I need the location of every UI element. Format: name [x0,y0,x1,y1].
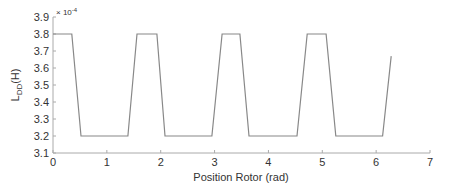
x-tick-label: 4 [265,156,271,168]
y-tick-label: 3.1 [34,147,49,159]
x-axis-label: Position Rotor (rad) [193,171,288,183]
data-line-ldd [53,34,391,136]
y-tick-label: 3.6 [34,62,49,74]
y-tick-label: 3.7 [34,45,49,57]
y-tick-label: 3.5 [34,79,49,91]
y-tick-label: 3.2 [34,130,49,142]
chart-container: 3.13.23.33.43.53.63.73.83.9 01234567 × 1… [0,0,450,189]
y-tick-label: 3.8 [34,28,49,40]
y-axis-label: LDD(H) [9,69,24,102]
x-tick-label: 1 [104,156,110,168]
x-tick-label: 0 [50,156,56,168]
x-tick-label: 7 [427,156,433,168]
x-tick-label: 2 [158,156,164,168]
x-tick-label: 6 [373,156,379,168]
x-tick-label: 3 [212,156,218,168]
y-tick-label: 3.9 [34,11,49,23]
x-tick-label: 5 [319,156,325,168]
y-tick-label: 3.3 [34,113,49,125]
y-exponent-label: × 10-4 [56,7,78,17]
y-tick-label: 3.4 [34,96,49,108]
